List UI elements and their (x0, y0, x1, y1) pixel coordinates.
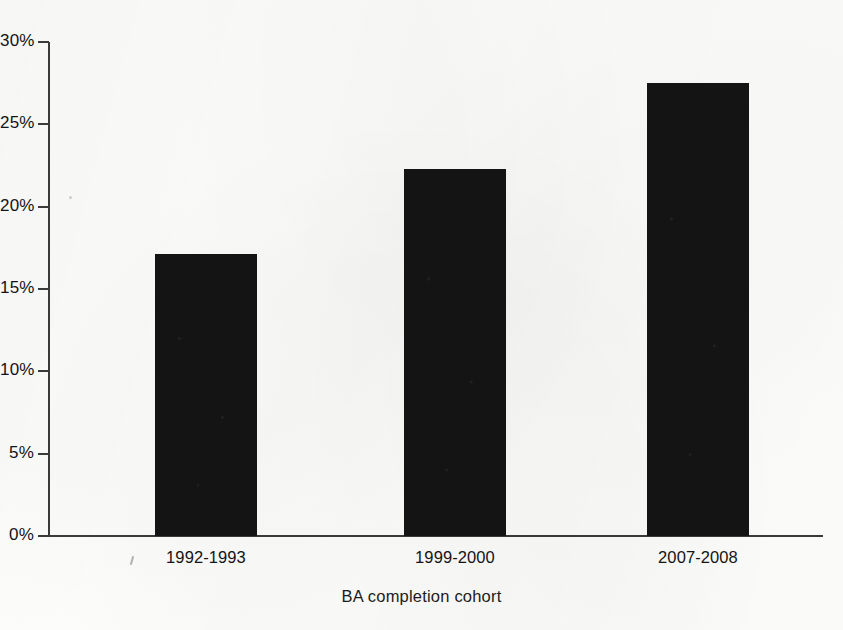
x-axis-category-label: 1992-1993 (166, 548, 246, 567)
scan-speck (69, 196, 72, 199)
y-axis-tick (38, 123, 49, 125)
y-axis-tick-label: 20% (0, 196, 34, 216)
y-axis-tick-label: 0% (0, 525, 34, 545)
bar (647, 83, 749, 536)
x-axis-category-label: 1999-2000 (415, 548, 495, 567)
y-axis-tick-label: 5% (0, 443, 34, 463)
scan-speck (130, 556, 134, 565)
y-axis-tick (38, 288, 49, 290)
y-axis-tick-label: 15% (0, 278, 34, 298)
bar-chart: 0%5%10%15%20%25%30% 1992-19931999-200020… (0, 0, 843, 630)
bar (155, 254, 257, 536)
y-axis-tick (38, 206, 49, 208)
y-axis-tick (38, 41, 49, 43)
y-axis-tick (38, 453, 49, 455)
chart-page: 0%5%10%15%20%25%30% 1992-19931999-200020… (0, 0, 843, 630)
x-axis-title: BA completion cohort (0, 587, 843, 606)
x-axis-category-label: 2007-2008 (658, 548, 738, 567)
bar (404, 169, 506, 536)
y-axis-tick (38, 370, 49, 372)
y-axis-tick-label: 30% (0, 31, 34, 51)
y-axis-tick-label: 10% (0, 360, 34, 380)
y-axis-tick (38, 535, 49, 537)
y-axis-tick-label: 25% (0, 113, 34, 133)
